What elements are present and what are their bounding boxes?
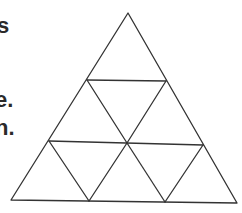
diagonal-5 [127,143,165,202]
diagonal-3 [49,141,89,201]
horizontal-line-1 [87,80,166,81]
diagonal-1 [87,80,127,143]
diagonal-4 [89,143,127,201]
canvas: s e. n. [0,0,242,213]
outer-triangle [11,13,237,203]
subdivided-triangle-figure [0,0,242,213]
diagonal-2 [127,81,166,143]
diagonal-6 [165,145,203,202]
